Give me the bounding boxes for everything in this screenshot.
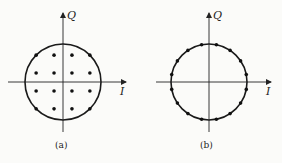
panel-b: Q I (b) [156,9,271,150]
constellation-point [88,53,92,57]
constellation-point [88,89,92,93]
panel-caption: (b) [200,140,213,150]
constellation-point [34,53,38,57]
q-axis-label: Q [67,9,76,22]
constellation-point [200,43,204,47]
constellation-point [228,49,232,53]
constellation-point [215,117,219,121]
constellation-point [228,112,232,116]
i-axis-label: I [265,85,271,98]
panel-caption: (a) [55,140,67,150]
constellation-point [34,107,38,111]
constellation-point [176,101,180,105]
constellation-point [170,88,174,92]
constellation-point [215,43,219,47]
constellation-point [176,59,180,63]
constellation-point [170,73,174,77]
constellation-point [70,71,74,75]
constellation-point [200,117,204,121]
constellation-point [52,107,56,111]
constellation-point [70,89,74,93]
constellation-point [239,59,243,63]
constellation-point [186,112,190,116]
constellation-point [88,71,92,75]
constellation-point [244,88,248,92]
constellation-point [52,89,56,93]
i-axis-label: I [119,85,125,98]
constellation-point [88,107,92,111]
constellation-point [244,73,248,77]
q-axis-label: Q [213,9,222,22]
panel-a: Q I (a) [8,9,126,150]
constellation-point [70,107,74,111]
constellation-point [34,89,38,93]
constellation-point [70,53,74,57]
constellation-point [52,53,56,57]
constellation-point [239,101,243,105]
constellation-point [186,49,190,53]
constellation-point [34,71,38,75]
constellation-figure: Q I (a) Q I (b) [0,0,282,163]
constellation-point [52,71,56,75]
